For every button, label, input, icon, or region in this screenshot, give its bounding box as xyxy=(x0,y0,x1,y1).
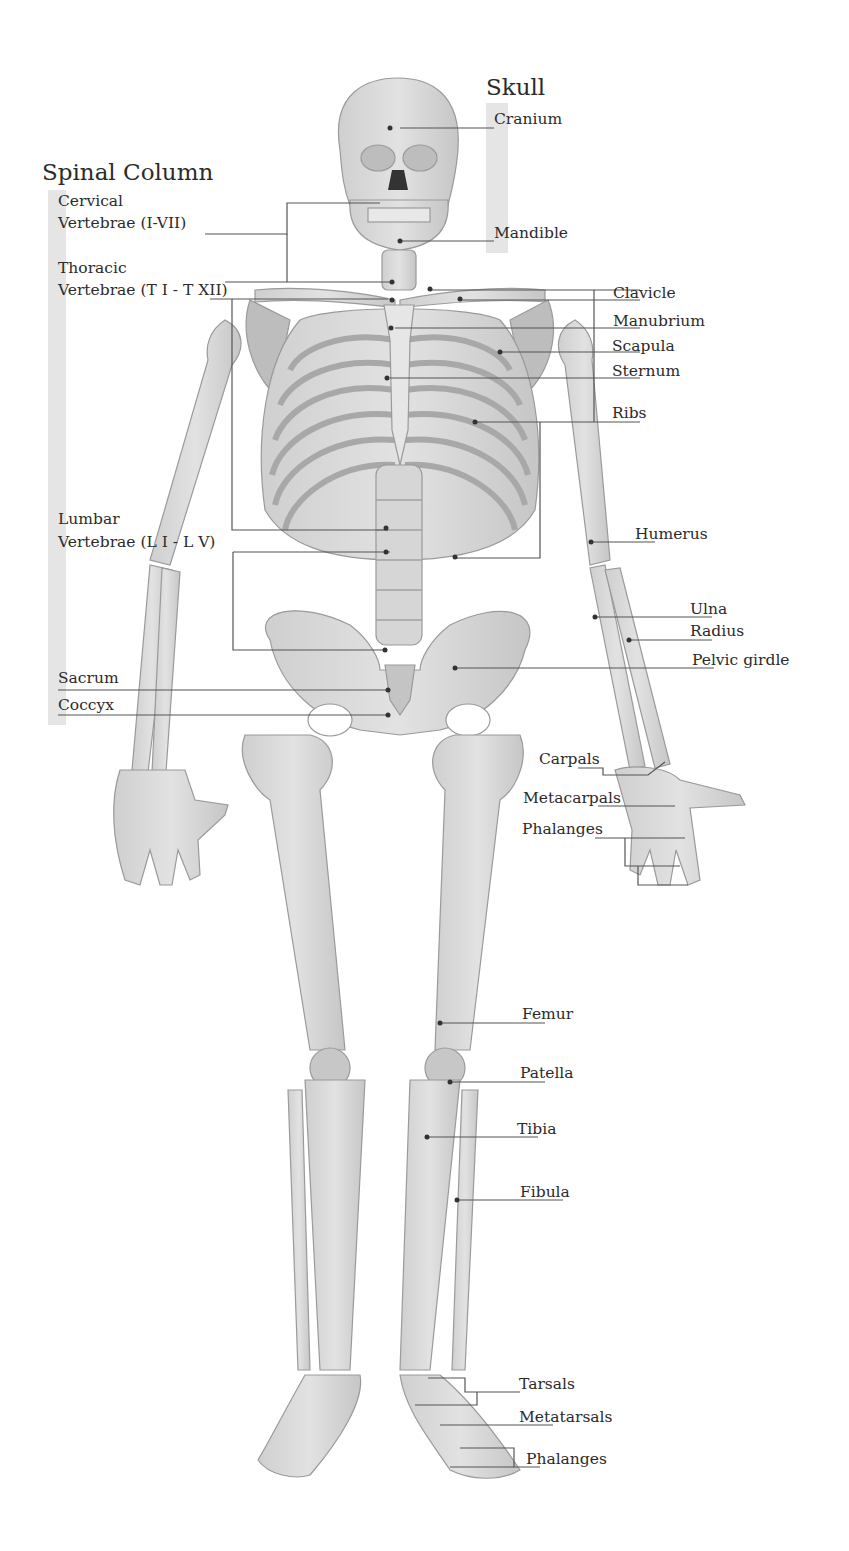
label-ribs: Ribs xyxy=(612,404,647,423)
label-cervical-line2: Vertebrae (I-VII) xyxy=(58,214,186,233)
label-coccyx: Coccyx xyxy=(58,696,114,715)
label-metatarsals: Metatarsals xyxy=(519,1408,613,1427)
label-lumbar-line2: Vertebrae (L I - L V) xyxy=(58,533,215,552)
label-hand-phalanges: Phalanges xyxy=(522,820,603,839)
skull-group-title: Skull xyxy=(486,74,545,100)
label-tarsals: Tarsals xyxy=(519,1375,575,1394)
label-humerus: Humerus xyxy=(635,525,708,544)
label-metacarpals: Metacarpals xyxy=(523,789,621,808)
label-patella: Patella xyxy=(520,1064,574,1083)
label-ulna: Ulna xyxy=(690,600,727,619)
label-cranium: Cranium xyxy=(494,110,562,129)
label-femur: Femur xyxy=(522,1005,573,1024)
label-fibula: Fibula xyxy=(520,1183,570,1202)
label-mandible: Mandible xyxy=(494,224,568,243)
label-lumbar-line1: Lumbar xyxy=(58,510,120,529)
label-pelvic-girdle: Pelvic girdle xyxy=(692,651,790,670)
label-sacrum: Sacrum xyxy=(58,669,119,688)
spinal-column-group-title: Spinal Column xyxy=(42,159,213,185)
label-radius: Radius xyxy=(690,622,744,641)
label-carpals: Carpals xyxy=(539,750,600,769)
label-scapula: Scapula xyxy=(612,337,675,356)
label-sternum: Sternum xyxy=(612,362,680,381)
label-foot-phalanges: Phalanges xyxy=(526,1450,607,1469)
label-tibia: Tibia xyxy=(517,1120,556,1139)
label-clavicle: Clavicle xyxy=(613,284,676,303)
label-thoracic-line1: Thoracic xyxy=(58,259,127,278)
skeleton-diagram: Skull Cranium Mandible Spinal Column Cer… xyxy=(0,0,849,1551)
label-thoracic-line2: Vertebrae (T I - T XII) xyxy=(58,281,228,300)
label-cervical-line1: Cervical xyxy=(58,192,123,211)
label-manubrium: Manubrium xyxy=(613,312,705,331)
